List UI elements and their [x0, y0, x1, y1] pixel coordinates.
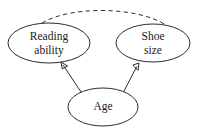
- edge-age-to-reading-arrowhead: [61, 62, 68, 69]
- causal-path-diagram: Reading ability Shoe size Age: [0, 0, 201, 131]
- node-reading-ability-label-line2: ability: [34, 44, 64, 57]
- edge-age-to-reading: [61, 62, 81, 92]
- node-shoe-size[interactable]: Shoe size: [116, 24, 190, 62]
- node-shoe-size-label-line1: Shoe: [142, 30, 165, 42]
- edge-reading-shoe-association: [42, 10, 166, 25]
- node-age[interactable]: Age: [68, 88, 138, 126]
- diagram-canvas: Reading ability Shoe size Age: [0, 0, 201, 131]
- node-reading-ability-label-line1: Reading: [30, 30, 69, 43]
- edge-age-to-reading-line: [63, 65, 81, 92]
- node-reading-ability[interactable]: Reading ability: [8, 23, 90, 63]
- node-age-label: Age: [93, 100, 112, 113]
- node-shoe-size-label-line2: size: [144, 44, 162, 56]
- edge-age-to-shoe-arrowhead: [133, 63, 139, 70]
- edge-age-to-shoe: [123, 63, 139, 93]
- edge-age-to-shoe-line: [123, 66, 137, 93]
